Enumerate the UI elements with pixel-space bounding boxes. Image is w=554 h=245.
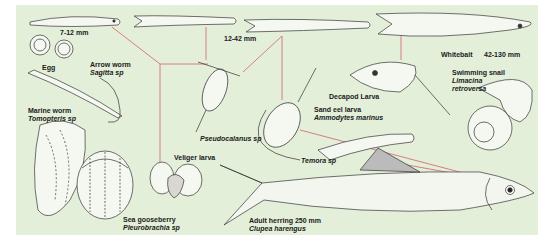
- label-swimming-snail-sci-2: retroversa: [452, 85, 486, 93]
- label-sand-eel-sci: Ammodytes marinus: [314, 114, 383, 122]
- label-sea-gooseberry: Sea gooseberry: [123, 216, 176, 224]
- decapod-larva-icon: [350, 62, 450, 115]
- label-veliger-larva: Veliger larva: [174, 154, 215, 162]
- herring-juvenile-icon: [134, 16, 370, 32]
- label-arrow-worm: Arrow worm: [90, 61, 131, 69]
- label-whitebait: Whitebait: [441, 51, 473, 59]
- label-adult-herring-sci: Clupea harengus: [249, 225, 306, 233]
- veliger-larva-icon: [150, 162, 202, 198]
- label-whitebait-size: 42-130 mm: [484, 51, 520, 59]
- sea-gooseberry-icon: [77, 151, 133, 219]
- label-swimming-snail: Swimming snail: [452, 69, 505, 77]
- label-pseudocalanus: Pseudocalanus sp: [200, 135, 261, 143]
- label-egg: Egg: [42, 64, 55, 72]
- label-swimming-snail-sci-1: Limacina: [452, 77, 482, 85]
- label-adult-herring: Adult herring 250 mm: [249, 217, 321, 225]
- temora-icon: [256, 68, 316, 160]
- marine-worm-icon: [34, 121, 85, 216]
- adult-herring-icon: [220, 148, 534, 225]
- label-juvenile-12-42mm: 12-42 mm: [224, 35, 256, 43]
- herring-larva-icon: [30, 17, 120, 27]
- label-marine-worm: Marine worm: [28, 107, 71, 115]
- pseudocalanus-icon: [196, 62, 240, 132]
- whitebait-icon: [376, 13, 531, 36]
- herring-egg-icon: [30, 35, 73, 58]
- label-marine-worm-sci: Tomopteris sp: [28, 115, 76, 123]
- label-sand-eel: Sand eel larva: [314, 106, 361, 114]
- label-sea-gooseberry-sci: Pleurobrachia sp: [123, 224, 180, 232]
- label-arrow-worm-sci: Sagitta sp: [90, 69, 123, 77]
- label-decapod-larva: Decapod Larva: [329, 93, 379, 101]
- label-larva-7-12mm: 7-12 mm: [60, 29, 88, 37]
- label-temora: Temora sp: [301, 157, 336, 165]
